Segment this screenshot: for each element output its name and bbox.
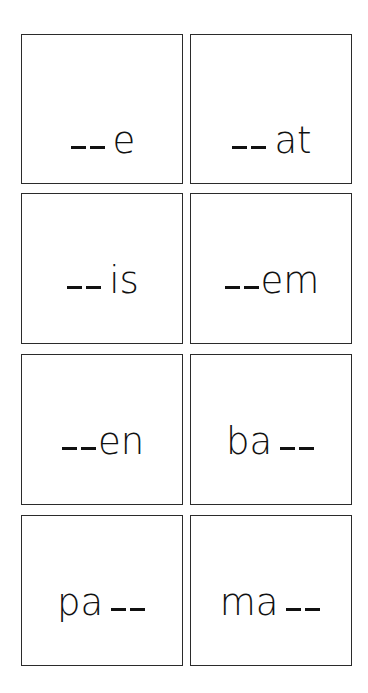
word-ending: is <box>109 259 139 302</box>
blank-line <box>305 608 320 611</box>
word-pattern: is <box>22 259 182 302</box>
blank-line <box>280 447 295 450</box>
blank-line <box>86 286 101 289</box>
blank-line <box>62 447 77 450</box>
blank-line <box>286 608 301 611</box>
word-pattern: en <box>22 420 182 463</box>
word-pattern: e <box>22 119 182 162</box>
blank-line <box>251 146 266 149</box>
word-card-e: e <box>21 34 183 184</box>
blank-line <box>232 146 247 149</box>
blank-line <box>111 608 126 611</box>
blank-line <box>71 146 86 149</box>
word-beginning: ba <box>226 420 272 463</box>
word-pattern: ma <box>191 581 351 624</box>
blank-line <box>244 286 259 289</box>
blank-line <box>90 146 105 149</box>
blank-line <box>225 286 240 289</box>
blank-line <box>130 608 145 611</box>
blank-line <box>299 447 314 450</box>
blank-line <box>81 447 96 450</box>
word-ending: en <box>98 420 144 463</box>
word-beginning: ma <box>220 581 279 624</box>
word-ending: em <box>261 259 320 302</box>
word-card-en: en <box>21 354 183 505</box>
word-beginning: pa <box>57 581 103 624</box>
word-card-at: at <box>190 34 352 184</box>
word-card-is: is <box>21 193 183 344</box>
word-pattern: pa <box>22 581 182 624</box>
word-card-pa: pa <box>21 515 183 666</box>
word-pattern: em <box>191 259 351 302</box>
word-ending: e <box>113 119 136 162</box>
word-pattern: ba <box>191 420 351 463</box>
word-ending: at <box>274 119 311 162</box>
word-card-em: em <box>190 193 352 344</box>
word-card-ma: ma <box>190 515 352 666</box>
blank-line <box>67 286 82 289</box>
word-pattern: at <box>191 119 351 162</box>
word-card-ba: ba <box>190 354 352 505</box>
